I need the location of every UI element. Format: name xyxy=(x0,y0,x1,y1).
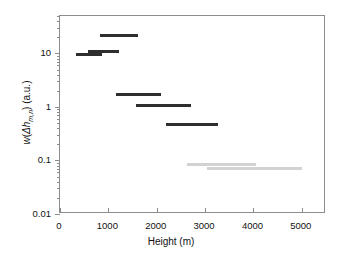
x-axis-tick xyxy=(302,208,303,213)
y-axis-tick xyxy=(55,160,60,161)
y-axis-minor-tick xyxy=(57,16,60,17)
y-axis-minor-tick xyxy=(57,169,60,170)
y-axis-minor-tick xyxy=(57,91,60,92)
y-axis-minor-tick xyxy=(57,81,60,82)
data-segment xyxy=(207,167,303,170)
data-segment xyxy=(100,34,138,37)
x-axis-tick-label: 2000 xyxy=(145,220,166,231)
y-axis-minor-tick xyxy=(57,163,60,164)
y-axis-tick xyxy=(55,107,60,108)
data-segment xyxy=(76,53,102,56)
y-axis-minor-tick xyxy=(57,172,60,173)
data-segment xyxy=(116,93,161,96)
y-axis-minor-tick xyxy=(57,115,60,116)
x-axis-tick-label: 5000 xyxy=(290,220,311,231)
y-axis-tick-label: 0.01 xyxy=(0,208,51,219)
data-segment xyxy=(166,123,218,126)
x-axis-tick xyxy=(157,208,158,213)
x-axis-tick-label: 4000 xyxy=(242,220,263,231)
y-axis-tick xyxy=(55,214,60,215)
y-axis-minor-tick xyxy=(57,70,60,71)
x-axis-tick xyxy=(108,208,109,213)
x-axis-tick xyxy=(205,208,206,213)
x-axis-tick xyxy=(253,208,254,213)
y-axis-tick-label: 0.1 xyxy=(0,154,51,165)
y-axis-minor-tick xyxy=(57,37,60,38)
y-axis-minor-tick xyxy=(57,112,60,113)
y-axis-minor-tick xyxy=(57,188,60,189)
y-axis-minor-tick xyxy=(57,59,60,60)
x-axis-tick-label: 3000 xyxy=(194,220,215,231)
data-segment xyxy=(187,163,257,166)
y-axis-minor-tick xyxy=(57,62,60,63)
y-axis-minor-tick xyxy=(57,109,60,110)
y-axis-minor-tick xyxy=(57,166,60,167)
y-axis-minor-tick xyxy=(57,135,60,136)
y-axis-minor-tick xyxy=(57,75,60,76)
y-axis-minor-tick xyxy=(57,28,60,29)
y-axis-tick xyxy=(55,53,60,54)
x-axis-tick xyxy=(60,208,61,213)
x-axis-label: Height (m) xyxy=(0,236,342,247)
y-axis-minor-tick xyxy=(57,182,60,183)
plot-frame xyxy=(59,15,325,213)
y-axis-minor-tick xyxy=(57,21,60,22)
x-axis-tick-label: 1000 xyxy=(97,220,118,231)
y-axis-tick-label: 1 xyxy=(0,100,51,111)
x-axis-tick-label: 0 xyxy=(56,220,61,231)
y-axis-minor-tick xyxy=(57,177,60,178)
y-axis-minor-tick xyxy=(57,198,60,199)
y-axis-tick-label: 10 xyxy=(0,47,51,58)
y-axis-minor-tick xyxy=(57,56,60,57)
y-axis-minor-tick xyxy=(57,128,60,129)
data-segment xyxy=(136,104,190,107)
y-axis-minor-tick xyxy=(57,65,60,66)
y-axis-minor-tick xyxy=(57,144,60,145)
y-axis-minor-tick xyxy=(57,123,60,124)
chart-figure: w(Δhm,n) (a.u.) Height (m) 0100020003000… xyxy=(0,0,342,257)
y-axis-minor-tick xyxy=(57,119,60,120)
plot-area xyxy=(60,16,324,212)
